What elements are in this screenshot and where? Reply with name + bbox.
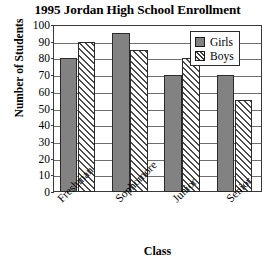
x-axis-title: Class (53, 244, 262, 259)
y-axis-tick-labels: 1009080706050403020100 (22, 25, 50, 192)
y-axis-tick-label: 30 (22, 136, 50, 147)
y-axis-tick-label: 90 (22, 36, 50, 47)
x-axis-tick-labels: FreshmanSophomoreJuniorSenior (53, 192, 262, 240)
legend-label-boys: Boys (210, 50, 234, 62)
bar-freshman-girls (60, 58, 78, 192)
chart-legend: Girls Boys (190, 31, 240, 66)
chart-title: 1995 Jordan High School Enrollment (0, 2, 275, 18)
legend-swatch-boys-icon (195, 51, 205, 61)
bar-senior-girls (217, 75, 235, 192)
bar-junior-girls (164, 75, 182, 192)
bar-junior-boys (182, 58, 200, 192)
legend-item-boys: Boys (195, 49, 234, 62)
enrollment-bar-chart: 1995 Jordan High School Enrollment Numbe… (0, 0, 275, 264)
y-axis-tick-label: 40 (22, 120, 50, 131)
y-axis-tick-label: 70 (22, 70, 50, 81)
bar-sophomore-girls (112, 33, 130, 192)
y-axis-tick-label: 20 (22, 153, 50, 164)
y-axis-tick-label: 50 (22, 103, 50, 114)
y-axis-tick-label: 60 (22, 86, 50, 97)
y-axis-tick-label: 0 (22, 187, 50, 198)
legend-swatch-girls-icon (195, 37, 205, 47)
y-axis-tick-label: 10 (22, 170, 50, 181)
y-axis-tick-label: 80 (22, 53, 50, 64)
y-axis-tick-label: 100 (22, 20, 50, 31)
legend-item-girls: Girls (195, 35, 234, 48)
legend-label-girls: Girls (210, 36, 233, 48)
